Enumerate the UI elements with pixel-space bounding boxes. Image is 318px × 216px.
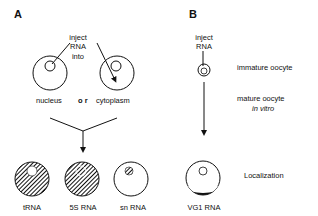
- oocyte-cytoplasm-injection: [100, 56, 134, 90]
- label-vg1-rna: VG1 RNA: [188, 203, 221, 212]
- arrow-to-nucleus: [52, 43, 70, 64]
- label-in-vitro: in vitro: [252, 104, 274, 113]
- result-sn-rna: [114, 162, 148, 196]
- panel-b-label: B: [189, 8, 197, 20]
- panel-b-inject-line-1: inject: [195, 33, 213, 42]
- label-or: o r: [78, 96, 88, 105]
- label-nucleus: nucleus: [36, 96, 62, 105]
- panel-a-inject-line-2: RNA: [70, 42, 86, 51]
- result-vg1-rna: [185, 161, 221, 205]
- panel-a-inject-line-1: inject: [69, 33, 87, 42]
- converging-arrow: [50, 118, 117, 150]
- label-cytoplasm: cytoplasm: [96, 96, 130, 105]
- panel-b-inject-line-2: RNA: [196, 42, 212, 51]
- panel-a-inject-line-3: into: [72, 52, 84, 61]
- result-trna: [15, 162, 49, 196]
- label-mature-oocyte: mature oocyte: [237, 94, 285, 103]
- panel-a-label: A: [14, 8, 22, 20]
- label-immature-oocyte: immature oocyte: [237, 63, 292, 72]
- label-sn-rna: sn RNA: [120, 203, 146, 212]
- label-5s-rna: 5S RNA: [69, 203, 96, 212]
- oocyte-nucleus-injection: [33, 56, 67, 90]
- label-trna: tRNA: [23, 203, 41, 212]
- result-5s-rna: [65, 162, 99, 196]
- label-localization: Localization: [244, 171, 284, 180]
- immature-oocyte: [198, 64, 210, 76]
- diagram-canvas: A inject RNA into nucleus o r cytoplasm …: [0, 0, 318, 216]
